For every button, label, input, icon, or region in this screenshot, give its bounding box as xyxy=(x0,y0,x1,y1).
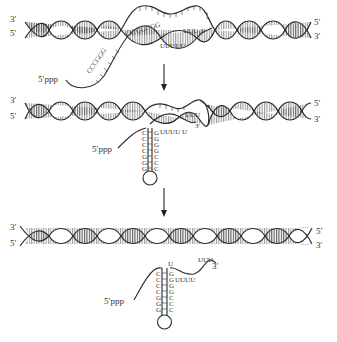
stage-3: C C C C G G G G G G G C C C 3′ 5′ 5′ 3′ … xyxy=(10,222,323,329)
hairpin-left-bases-3: C C C C G G G xyxy=(156,270,161,314)
hairpin-left-bases: C C C C G G G xyxy=(142,129,147,173)
rna-3prime-label-3: 3′ xyxy=(212,261,219,271)
hairpin-3: C C C C G G G G G G G C C C xyxy=(156,268,174,329)
label-5prime: 5′ xyxy=(10,28,17,38)
stage-2: C C C C G G G G G G G C C C 3′ 5′ 5′ 3′ … xyxy=(10,95,321,185)
rna-3prime-u-2: UUU xyxy=(185,111,200,119)
stage-1: 3′ 5′ 5′ 3′ 5′ppp CCCGGG CC CGGGG UUU 3′… xyxy=(10,6,321,88)
svg-text:C: C xyxy=(169,306,174,314)
rna-3prime-u-3: UUU xyxy=(198,256,213,264)
hairpin-right-bases: G G G G C C C xyxy=(154,129,159,173)
rna-u-bases-3: UUUU xyxy=(175,276,195,284)
rna-u-bases: UUU 3′ xyxy=(183,27,205,35)
template-u-bases: UUUUU xyxy=(160,42,185,50)
label-5prime-3: 5′ xyxy=(10,238,17,248)
label-3prime-3: 3′ xyxy=(10,222,17,232)
svg-text:G: G xyxy=(156,306,161,314)
dna-helix-left xyxy=(25,21,121,39)
label-5prime-2: 5′ xyxy=(10,111,17,121)
svg-text:C: C xyxy=(154,165,159,173)
label-3prime: 3′ xyxy=(10,14,17,24)
label-3prime-right-2: 3′ xyxy=(314,114,321,124)
down-arrow-2 xyxy=(161,188,167,217)
hairpin-2: C C C C G G G G G G G C C C xyxy=(142,128,159,185)
dna-helix-left-2 xyxy=(25,102,145,120)
svg-text:G: G xyxy=(142,165,147,173)
down-arrow-1 xyxy=(161,64,167,91)
rna-5ppp-label: 5′ppp xyxy=(38,74,58,84)
rna-3prime-label-2: 3′ xyxy=(195,122,201,130)
top-u-base-3: U xyxy=(168,260,173,268)
rna-5ppp-label-2: 5′ppp xyxy=(92,144,112,154)
bubble-ticks xyxy=(140,6,210,19)
dna-helix-right xyxy=(215,21,311,39)
rna-5ppp-label-3: 5′ppp xyxy=(104,296,124,306)
label-5prime-right: 5′ xyxy=(314,17,321,27)
hairpin-right-bases-3: G G G G C C C xyxy=(169,270,174,314)
gc-bases-a: CCCGGG xyxy=(85,47,108,75)
rna-u-bases-2: UUUU U xyxy=(160,128,187,136)
label-3prime-right: 3′ xyxy=(314,31,321,41)
termination-diagram: 3′ 5′ 5′ 3′ 5′ppp CCCGGG CC CGGGG UUU 3′… xyxy=(0,0,337,342)
dna-helix-right-2 xyxy=(200,100,311,125)
label-3prime-right-3: 3′ xyxy=(316,240,323,250)
dna-helix-full-3 xyxy=(20,226,312,246)
label-5prime-right-3: 5′ xyxy=(316,226,323,236)
label-3prime-2: 3′ xyxy=(10,95,17,105)
label-5prime-right-2: 5′ xyxy=(314,98,321,108)
